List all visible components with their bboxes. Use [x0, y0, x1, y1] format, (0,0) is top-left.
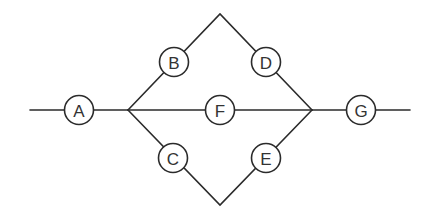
node-a-label: A — [73, 102, 85, 121]
node-f: F — [206, 96, 235, 125]
node-b: B — [160, 48, 189, 77]
node-g: G — [347, 96, 376, 125]
node-c: C — [159, 144, 188, 173]
node-d: D — [252, 48, 281, 77]
node-f-label: F — [215, 102, 225, 121]
node-g-label: G — [354, 102, 367, 121]
node-c-label: C — [167, 150, 179, 169]
network-diagram: A B C D E F G — [0, 0, 427, 217]
node-d-label: D — [260, 54, 272, 73]
node-b-label: B — [168, 54, 179, 73]
node-a: A — [65, 96, 94, 125]
node-e-label: E — [260, 150, 271, 169]
node-e: E — [252, 144, 281, 173]
